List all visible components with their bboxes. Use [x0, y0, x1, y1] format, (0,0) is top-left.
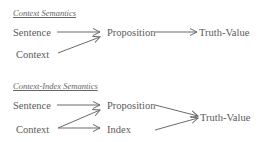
arrow-context-to-proposition	[58, 110, 100, 128]
node-truth-value: Truth-Value	[199, 27, 249, 39]
node-context: Context	[16, 49, 49, 61]
node-proposition: Proposition	[107, 100, 155, 112]
node-sentence: Sentence	[13, 27, 51, 39]
node-sentence: Sentence	[13, 100, 51, 112]
arrow-index-to-truth-value	[155, 118, 198, 130]
context-semantics-title: Context Semantics	[13, 8, 76, 18]
arrow-proposition-to-truth-value	[155, 105, 198, 116]
arrow-context-to-proposition	[58, 37, 100, 53]
node-index: Index	[107, 124, 131, 136]
node-proposition: Proposition	[107, 27, 155, 39]
node-context: Context	[16, 124, 49, 136]
context-index-semantics-title: Context-Index Semantics	[13, 81, 98, 91]
node-truth-value: Truth-Value	[200, 112, 250, 124]
